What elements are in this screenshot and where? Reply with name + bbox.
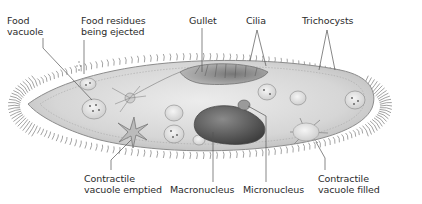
label-contractile-vacuole-filled: Contractile vacuole filled bbox=[318, 173, 380, 195]
label-micronucleus: Micronucleus bbox=[243, 184, 304, 195]
label-cilia: Cilia bbox=[246, 15, 266, 26]
label-contractile-vacuole-emptied: Contractile vacuole emptied bbox=[84, 173, 162, 195]
label-food-residues: Food residues being ejected bbox=[81, 15, 145, 37]
micronucleus bbox=[238, 100, 250, 110]
label-food-vacuole: Food vacuole bbox=[7, 15, 43, 37]
paramecium-diagram: Food vacuole Food residues being ejected… bbox=[0, 0, 422, 204]
label-gullet: Gullet bbox=[189, 15, 217, 26]
label-trichocysts: Trichocysts bbox=[302, 15, 353, 26]
label-macronucleus: Macronucleus bbox=[170, 184, 234, 195]
